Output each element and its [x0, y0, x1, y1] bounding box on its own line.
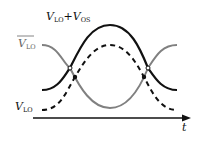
- waveform-diagram: t VLO+VOS VLO VLO: [0, 0, 200, 156]
- vlo-curve-label: VLO: [15, 100, 33, 114]
- open-crossing-marker-right: [146, 66, 150, 70]
- filled-crossing-marker-left: [73, 75, 77, 79]
- time-axis-label: t: [182, 121, 187, 134]
- filled-crossing-marker-right: [142, 75, 146, 79]
- open-crossing-marker-left: [68, 66, 72, 70]
- vlo-bar-curve-label: VLO: [18, 37, 36, 51]
- sum-curve-label: VLO+VOS: [46, 10, 91, 24]
